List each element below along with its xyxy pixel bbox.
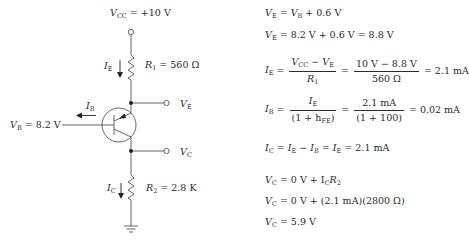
r1-resistor	[128, 55, 134, 80]
r2-resistor	[128, 175, 134, 200]
equation-ic: IC = IE − IB = IE = 2.1 mA	[265, 143, 389, 155]
ib-label: IB	[86, 101, 95, 113]
ve-terminal	[164, 100, 169, 105]
ie-arrow-icon	[117, 60, 123, 78]
equation-vc-substituted: VC = 0 V + (2.1 mA)(2800 Ω)	[265, 196, 405, 208]
equation-vc-result: VC = 5.9 V	[265, 217, 316, 229]
ib-arrow-icon	[76, 113, 96, 119]
vc-label: VC	[180, 147, 192, 159]
ic-label: IC	[107, 183, 116, 195]
vcc-terminal	[128, 29, 133, 34]
ground-icon	[124, 226, 138, 232]
equation-ie: IE = VCC − VE R1 = 10 V − 8.8 V 560 Ω = …	[265, 57, 469, 85]
vb-label: VB = 8.2 V	[10, 120, 61, 132]
emitter-arrow-icon	[119, 114, 126, 119]
ve-label: VE	[180, 99, 192, 111]
r1-label: R1 = 560 Ω	[145, 60, 199, 72]
equation-ve-formula: VE = VB + 0.6 V	[265, 8, 341, 20]
ic-arrow-icon	[118, 183, 124, 199]
vc-terminal	[164, 148, 169, 153]
vcc-label: VCC = +10 V	[110, 8, 171, 20]
equation-ib: IB = IE (1 + hFE) = 2.1 mA (1 + 100) = 0…	[265, 96, 460, 124]
equation-vc-formula: VC = 0 V + ICR2	[265, 175, 341, 187]
r2-label: R2 = 2.8 K	[146, 183, 197, 195]
ie-label: IE	[104, 61, 113, 73]
equation-ve-value: VE = 8.2 V + 0.6 V = 8.8 V	[265, 30, 394, 42]
